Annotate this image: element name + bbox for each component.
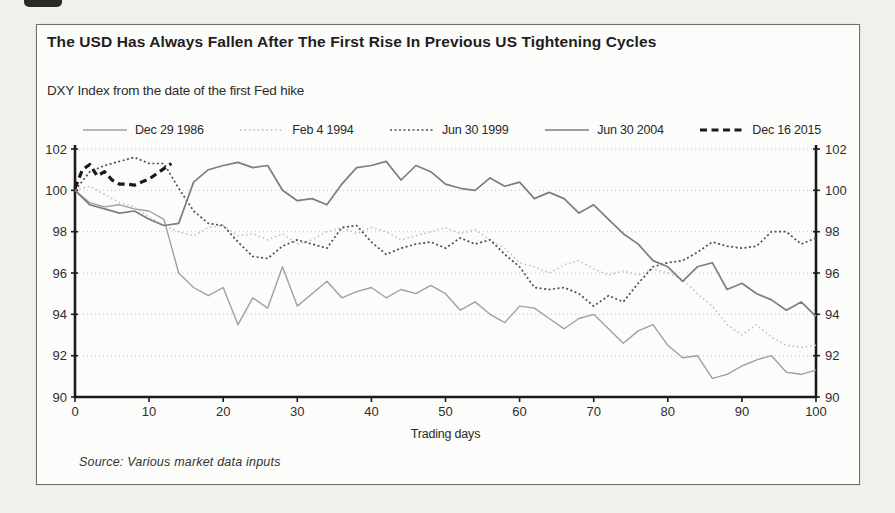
legend-label: Feb 4 1994 [292, 123, 353, 137]
y-tick-label-left: 102 [45, 142, 67, 157]
legend-item-1994: Feb 4 1994 [238, 123, 353, 137]
legend-label: Dec 29 1986 [135, 123, 204, 137]
series-line-feb-4-1994 [75, 186, 816, 347]
x-tick-label: 60 [512, 404, 526, 419]
legend-swatch-2004 [543, 125, 591, 135]
series-line-dec-29-1986 [75, 190, 816, 378]
x-tick-label: 100 [805, 404, 827, 419]
x-tick-label: 70 [586, 404, 600, 419]
legend: Dec 29 1986 Feb 4 1994 Jun 30 1999 Jun 3… [81, 121, 821, 139]
x-tick-label: 50 [438, 404, 452, 419]
x-tick-label: 80 [661, 404, 675, 419]
y-tick-label-right: 98 [825, 224, 839, 239]
y-tick-label-right: 100 [825, 183, 847, 198]
x-tick-label: 0 [71, 404, 78, 419]
x-tick-label: 90 [735, 404, 749, 419]
y-tick-label-left: 98 [53, 224, 67, 239]
y-tick-label-right: 90 [825, 390, 839, 405]
chart-title: The USD Has Always Fallen After The Firs… [47, 33, 847, 51]
legend-label: Jun 30 1999 [442, 123, 509, 137]
x-tick-label: 20 [216, 404, 230, 419]
series-line-dec-16-2015 [75, 164, 171, 189]
source-note: Source: Various market data inputs [79, 455, 579, 469]
legend-item-1999: Jun 30 1999 [388, 123, 509, 137]
y-tick-label-left: 94 [53, 307, 67, 322]
y-tick-label-left: 90 [53, 390, 67, 405]
series-line-jun-30-1999 [75, 157, 816, 306]
chart-subtitle: DXY Index from the date of the first Fed… [47, 83, 747, 98]
legend-swatch-1994 [238, 125, 286, 135]
x-axis-title: Trading days [75, 427, 816, 441]
legend-item-1986: Dec 29 1986 [81, 123, 204, 137]
x-tick-label: 10 [142, 404, 156, 419]
legend-swatch-1986 [81, 125, 129, 135]
y-tick-label-left: 96 [53, 266, 67, 281]
legend-item-2015: Dec 16 2015 [698, 123, 821, 137]
y-tick-label-left: 100 [45, 183, 67, 198]
legend-label: Jun 30 2004 [597, 123, 664, 137]
legend-swatch-2015 [698, 125, 746, 135]
y-tick-label-right: 94 [825, 307, 839, 322]
scan-artifact [24, 0, 62, 7]
legend-label: Dec 16 2015 [752, 123, 821, 137]
y-tick-label-right: 92 [825, 348, 839, 363]
legend-item-2004: Jun 30 2004 [543, 123, 664, 137]
x-tick-label: 30 [290, 404, 304, 419]
y-tick-label-right: 102 [825, 142, 847, 157]
x-tick-label: 40 [364, 404, 378, 419]
y-tick-label-right: 96 [825, 266, 839, 281]
chart-figure: 9090929294949696989810010010210201020304… [36, 24, 860, 485]
page-background: { "chart_data": { "type": "line", "title… [0, 0, 895, 513]
legend-swatch-1999 [388, 125, 436, 135]
y-tick-label-left: 92 [53, 348, 67, 363]
